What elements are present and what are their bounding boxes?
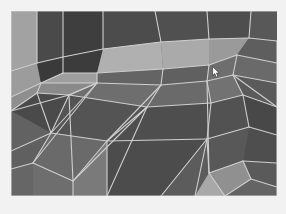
mesh-face <box>249 11 277 41</box>
mesh-viewport[interactable] <box>11 11 277 196</box>
mesh-face <box>155 11 209 42</box>
mesh-face <box>37 11 63 63</box>
mesh-face <box>11 11 37 71</box>
mesh-face <box>161 39 209 69</box>
mesh-face <box>207 11 251 39</box>
wireframe-mesh[interactable] <box>11 11 277 196</box>
screenshot-root <box>0 0 286 214</box>
